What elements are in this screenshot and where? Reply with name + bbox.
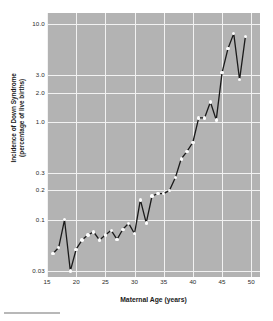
data-point-marker <box>51 252 54 255</box>
data-point-marker <box>74 248 77 251</box>
data-point-marker <box>104 233 107 236</box>
y-axis-title-line2: (percentage of live births) <box>18 38 26 198</box>
chart-figure: 0.030.10.20.31.02.03.010.0 1520253035404… <box>0 0 273 321</box>
x-tick-label: 15 <box>36 279 58 285</box>
data-point-marker <box>69 269 72 272</box>
data-point-marker <box>215 118 218 121</box>
y-tick-label: 10.0 <box>1 21 45 27</box>
data-point-marker <box>145 221 148 224</box>
data-point-marker <box>150 194 153 197</box>
x-tick-label: 35 <box>153 279 175 285</box>
x-axis-tick-labels: 1520253035404550 <box>47 279 260 291</box>
bottom-scroll-artifact <box>4 312 60 314</box>
data-point-marker <box>121 228 124 231</box>
data-point-marker <box>86 233 89 236</box>
y-axis-title-line1: Incidence of Down Syndrome <box>10 38 18 198</box>
data-point-marker <box>80 238 83 241</box>
x-tick-label: 45 <box>211 279 233 285</box>
data-point-marker <box>203 116 206 119</box>
x-axis-title: Maternal Age (years) <box>47 296 260 303</box>
y-axis-title: Incidence of Down Syndrome (percentage o… <box>10 38 26 198</box>
x-tick-label: 40 <box>182 279 204 285</box>
data-point-marker <box>115 238 118 241</box>
data-point-marker <box>209 100 212 103</box>
data-point-marker <box>191 141 194 144</box>
data-point-marker <box>156 192 159 195</box>
y-tick-label: 0.1 <box>1 217 45 223</box>
data-series-line <box>47 13 260 277</box>
x-tick-label: 25 <box>94 279 116 285</box>
x-tick-label: 30 <box>124 279 146 285</box>
data-point-marker <box>139 198 142 201</box>
data-point-marker <box>110 229 113 232</box>
data-point-marker <box>180 157 183 160</box>
y-tick-label: 0.03 <box>1 268 45 274</box>
x-tick-label: 50 <box>240 279 262 285</box>
data-point-marker <box>98 238 101 241</box>
data-point-marker <box>220 71 223 74</box>
plot-panel <box>47 13 260 277</box>
x-tick-label: 20 <box>65 279 87 285</box>
data-point-marker <box>185 150 188 153</box>
